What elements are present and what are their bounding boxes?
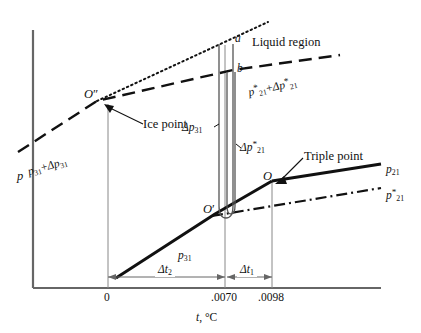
delta-p31-dp: Δp bbox=[182, 121, 195, 133]
point-o-double-prime-letter: O bbox=[84, 87, 93, 101]
long-dashed-line bbox=[18, 55, 340, 152]
p21star-plus-sub2: 21 bbox=[289, 81, 299, 91]
arrowhead-delta-t2-left bbox=[108, 274, 116, 280]
delta-t1-sub: 1 bbox=[250, 268, 254, 277]
leader-lines bbox=[104, 104, 303, 184]
p21star-sub: 21 bbox=[396, 194, 404, 203]
delta-p31-sub: 31 bbox=[195, 126, 203, 135]
arrowhead-ice-point bbox=[104, 104, 114, 113]
leader-dp31 bbox=[214, 124, 219, 127]
triple-point-label: Triple point bbox=[304, 150, 363, 163]
ice-point-label: Ice point bbox=[143, 118, 187, 131]
curve-label-p21: p21 bbox=[386, 164, 400, 177]
p31-sub: 31 bbox=[184, 254, 192, 263]
p31-plus-dp31-dp: Δp bbox=[46, 157, 61, 172]
point-o-label: O bbox=[263, 170, 272, 183]
delta-p21-star-label: Δp*21 bbox=[240, 140, 265, 155]
bracket-dp21-star bbox=[227, 72, 235, 214]
xtick-label-0070: .0070 bbox=[211, 292, 237, 304]
leader-ice-point bbox=[110, 108, 143, 124]
x-axis-title-unit: , °C bbox=[199, 311, 217, 323]
curve-label-p31: p31 bbox=[178, 250, 192, 263]
xtick-label-0: 0 bbox=[104, 292, 110, 304]
liquid-region-label: Liquid region bbox=[252, 36, 320, 49]
p21-sub: 21 bbox=[392, 168, 400, 177]
point-o-prime-letter: O bbox=[203, 202, 212, 216]
delta-p21star-dp: Δp bbox=[240, 141, 253, 153]
point-o-double-prime-label: O″ bbox=[84, 88, 98, 101]
xtick-label-0098: .0098 bbox=[258, 292, 284, 304]
delta-span-brackets bbox=[219, 44, 235, 218]
figure-canvas: Liquid region Ice point Triple point a b… bbox=[0, 0, 421, 333]
point-o-prime-mark: ′ bbox=[212, 202, 215, 216]
delta-t1-label: Δt1 bbox=[237, 264, 257, 277]
delta-t2-label: Δt2 bbox=[155, 264, 175, 277]
y-axis-title: p bbox=[17, 170, 23, 183]
arrowhead-delta-t1-left bbox=[227, 274, 235, 280]
arrowhead-delta-t1-right bbox=[264, 274, 272, 280]
x-axis-title: t, °C bbox=[196, 312, 217, 324]
arrowhead-delta-t2-right bbox=[217, 274, 225, 280]
point-b-label: b bbox=[237, 63, 243, 75]
point-o-double-prime-mark: ″ bbox=[93, 87, 98, 101]
point-o-prime-label: O′ bbox=[203, 203, 215, 216]
delta-p31-label: Δp31 bbox=[182, 122, 202, 135]
delta-t1-dt: Δt bbox=[240, 263, 250, 275]
delta-p21star-sub: 21 bbox=[257, 146, 265, 155]
delta-t2-sub: 2 bbox=[168, 268, 172, 277]
point-a-label: a bbox=[235, 33, 241, 45]
delta-t2-dt: Δt bbox=[158, 263, 168, 275]
curve-label-p21-star: p*21 bbox=[386, 188, 404, 203]
